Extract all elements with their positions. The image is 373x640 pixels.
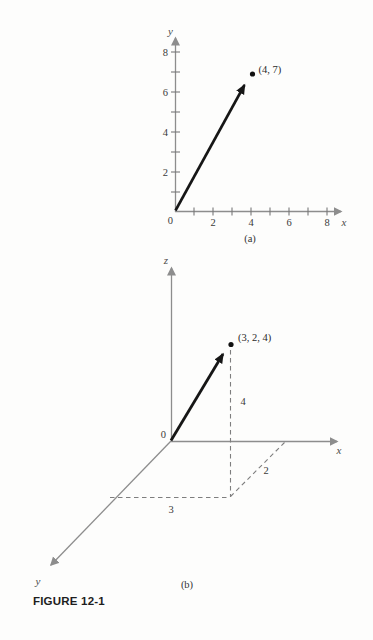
panel-b-y-axis (51, 441, 171, 565)
panel-b-point-label: (3, 2, 4) (238, 332, 272, 344)
panel-b-point-dot (228, 342, 233, 347)
panel-b-guide-label-x: 3 (168, 504, 173, 515)
figure-page: 2 4 6 8 8 6 4 2 0 y x (4, 7) (a) (0, 0, 373, 640)
figure-caption: FIGURE 12-1 (33, 595, 105, 607)
panel-a-vector-arrow (176, 85, 245, 211)
panel-a-point-label: (4, 7) (259, 64, 282, 76)
panel-a-caption: (a) (244, 233, 256, 245)
x-tick-label: 6 (286, 217, 291, 228)
y-tick-label: 2 (163, 167, 168, 178)
panel-b-origin-label: 0 (161, 429, 166, 440)
panel-b-guide-label-z: 4 (240, 396, 246, 407)
figure-canvas: 2 4 6 8 8 6 4 2 0 y x (4, 7) (a) (0, 0, 373, 640)
panel-b: z x y 0 4 3 2 (3, 2, 4) (b) (35, 254, 342, 591)
panel-a-origin-label: 0 (168, 215, 173, 226)
panel-b-guide-label-y: 2 (263, 465, 268, 476)
y-tick-label: 4 (163, 127, 169, 138)
panel-a-y-axis-label: y (167, 25, 173, 37)
panel-b-caption: (b) (181, 579, 194, 591)
panel-b-z-axis-label: z (163, 254, 169, 266)
x-tick-label: 8 (324, 217, 329, 228)
panel-a-x-axis-label: x (341, 216, 347, 228)
panel-b-vector-arrow (171, 354, 223, 441)
panel-b-y-axis-label: y (35, 575, 41, 587)
y-tick-label: 8 (163, 47, 168, 58)
y-tick-label: 6 (163, 87, 168, 98)
panel-b-guide-y-dashed (231, 443, 285, 497)
panel-a: 2 4 6 8 8 6 4 2 0 y x (4, 7) (a) (163, 25, 347, 245)
x-tick-label: 2 (210, 217, 215, 228)
panel-b-x-axis-label: x (336, 444, 342, 456)
x-tick-label: 4 (248, 217, 254, 228)
panel-a-point-dot (250, 71, 255, 76)
